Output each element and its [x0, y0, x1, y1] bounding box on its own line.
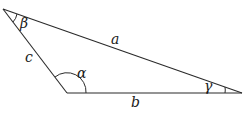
side-b-label: b — [131, 94, 140, 110]
beta-arc — [13, 14, 17, 22]
alpha-label: α — [77, 65, 87, 81]
side-a-label: a — [111, 31, 119, 47]
beta-label: β — [19, 15, 28, 31]
side-c-label: c — [25, 49, 33, 65]
gamma-label: γ — [204, 78, 213, 94]
triangle-diagram: β a c α b γ — [0, 0, 252, 113]
side-c — [3, 9, 67, 93]
